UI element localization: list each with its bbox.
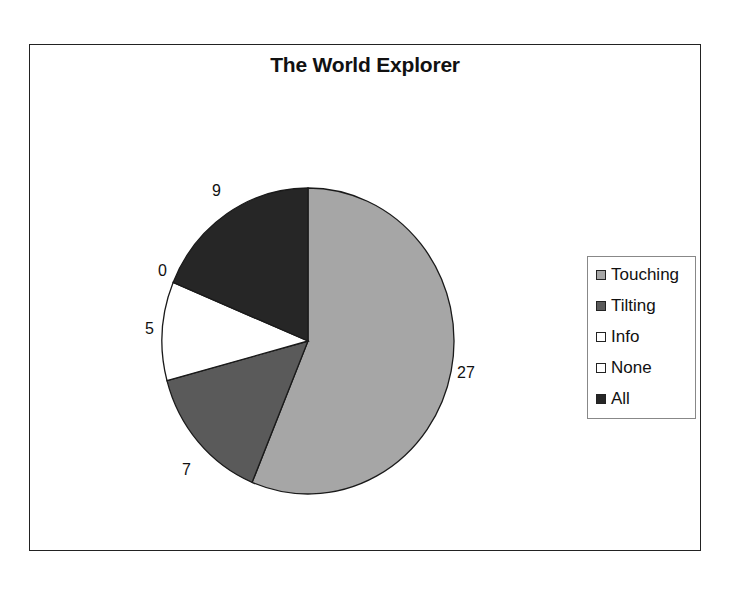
data-label-touching: 27 (457, 364, 475, 382)
legend-label: Info (611, 327, 639, 347)
chart-frame: The World Explorer 27 7 5 0 9 Touching T… (29, 44, 701, 551)
legend-label: Touching (611, 265, 679, 285)
data-label-tilting: 7 (182, 461, 191, 479)
legend: Touching Tilting Info None All (587, 256, 696, 419)
legend-label: All (611, 389, 630, 409)
data-label-all: 9 (212, 182, 221, 200)
legend-item-touching: Touching (596, 265, 679, 285)
data-label-none: 0 (158, 262, 167, 280)
legend-item-none: None (596, 358, 652, 378)
legend-swatch-none (596, 363, 606, 373)
legend-swatch-info (596, 332, 606, 342)
data-label-info: 5 (145, 320, 154, 338)
legend-item-tilting: Tilting (596, 296, 656, 316)
legend-swatch-tilting (596, 301, 606, 311)
legend-item-info: Info (596, 327, 639, 347)
legend-item-all: All (596, 389, 630, 409)
legend-swatch-all (596, 394, 606, 404)
legend-label: None (611, 358, 652, 378)
legend-label: Tilting (611, 296, 656, 316)
legend-swatch-touching (596, 270, 606, 280)
